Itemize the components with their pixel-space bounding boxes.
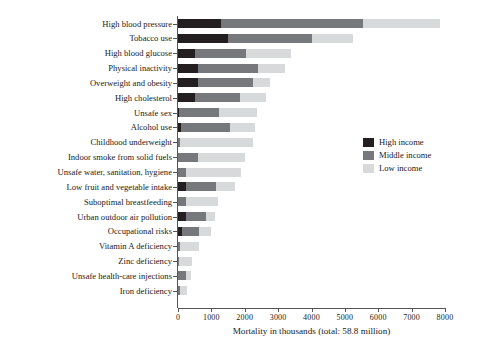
category-label-5: High cholesterol [0, 94, 177, 103]
bar-segment-low-income [186, 271, 192, 280]
bar-segment-low-income [253, 78, 270, 87]
bar-row [178, 197, 445, 206]
bar-segment-high-income [178, 19, 221, 28]
legend-item-2: Low income [363, 162, 431, 175]
x-tick-8000 [445, 308, 446, 312]
bar-segment-low-income [312, 34, 354, 43]
bar-row [178, 257, 445, 266]
x-tick-label-8000: 8000 [437, 313, 454, 322]
bar-row [178, 286, 445, 295]
category-label-15: Vitamin A deficiency [0, 242, 177, 251]
bar-segment-low-income [180, 242, 199, 251]
bar-row [178, 123, 445, 132]
x-axis-title: Mortality in thousands (total: 58.8 mill… [178, 326, 445, 336]
category-label-2: High blood glucose [0, 49, 177, 58]
bar-segment-low-income [186, 197, 218, 206]
bar-row [178, 34, 445, 43]
bar-segment-middle-income [198, 78, 253, 87]
x-tick-label-3000: 3000 [270, 313, 287, 322]
category-label-4: Overweight and obesity [0, 79, 177, 88]
bar-row [178, 271, 445, 280]
category-label-9: Indoor smoke from solid fuels [0, 153, 177, 162]
bar-segment-low-income [246, 49, 291, 58]
x-tick-label-1000: 1000 [203, 313, 220, 322]
category-label-13: Urban outdoor air pollution [0, 213, 177, 222]
category-label-17: Unsafe health-care injections [0, 272, 177, 281]
category-label-8: Childhood underweight [0, 138, 177, 147]
category-label-12: Suboptimal breastfeeding [0, 198, 177, 207]
category-label-18: Iron deficiency [0, 287, 177, 296]
bar-segment-low-income [216, 182, 234, 191]
bar-row [178, 19, 445, 28]
category-label-11: Low fruit and vegetable intake [0, 183, 177, 192]
bar-segment-low-income [180, 286, 187, 295]
bar-row [178, 227, 445, 236]
category-label-3: Physical inactivity [0, 64, 177, 73]
x-tick-6000 [378, 308, 379, 312]
bar-segment-middle-income [186, 212, 207, 221]
bar-segment-middle-income [179, 108, 219, 117]
bar-segment-middle-income [198, 64, 258, 73]
x-tick-5000 [345, 308, 346, 312]
bar-row [178, 93, 445, 102]
legend-label-1: Middle income [379, 149, 431, 162]
category-label-0: High blood pressure [0, 20, 177, 29]
bar-segment-low-income [240, 93, 267, 102]
bar-segment-middle-income [181, 123, 229, 132]
category-label-10: Unsafe water, sanitation, hygiene [0, 168, 177, 177]
bar-segment-high-income [178, 49, 195, 58]
legend-swatch-2 [363, 164, 374, 173]
legend-label-2: Low income [379, 162, 422, 175]
category-label-16: Zinc deficiency [0, 257, 177, 266]
x-tick-2000 [245, 308, 246, 312]
bar-row [178, 182, 445, 191]
category-label-7: Alcohol use [0, 123, 177, 132]
bar-segment-middle-income [195, 49, 247, 58]
bar-segment-low-income [186, 168, 241, 177]
x-tick-7000 [412, 308, 413, 312]
bar-segment-middle-income [221, 19, 363, 28]
category-label-1: Tobacco use [0, 34, 177, 43]
category-label-14: Occupational risks [0, 227, 177, 236]
legend-label-0: High income [379, 136, 424, 149]
bar-row [178, 49, 445, 58]
bar-row [178, 242, 445, 251]
bar-row [178, 212, 445, 221]
bar-segment-middle-income [178, 197, 186, 206]
bar-segment-middle-income [228, 34, 311, 43]
legend-swatch-1 [363, 151, 374, 160]
x-tick-4000 [312, 308, 313, 312]
x-tick-0 [178, 308, 179, 312]
bar-segment-high-income [178, 93, 195, 102]
bar-segment-high-income [178, 34, 228, 43]
bar-segment-middle-income [178, 153, 198, 162]
bar-row [178, 64, 445, 73]
bar-segment-low-income [199, 227, 211, 236]
x-tick-label-2000: 2000 [236, 313, 253, 322]
x-tick-label-0: 0 [176, 313, 180, 322]
bar-segment-high-income [178, 64, 198, 73]
bar-segment-high-income [178, 212, 186, 221]
bar-segment-low-income [258, 64, 285, 73]
bar-segment-low-income [230, 123, 255, 132]
bar-segment-low-income [180, 138, 253, 147]
bar-segment-middle-income [195, 93, 240, 102]
bar-segment-middle-income [178, 271, 186, 280]
chart-figure: 010002000300040005000600070008000 High b… [0, 0, 491, 358]
category-label-6: Unsafe sex [0, 109, 177, 118]
x-tick-label-4000: 4000 [303, 313, 320, 322]
bar-segment-middle-income [178, 168, 186, 177]
bar-segment-low-income [363, 19, 440, 28]
bar-segment-middle-income [186, 182, 216, 191]
bar-segment-low-income [198, 153, 245, 162]
x-tick-label-6000: 6000 [370, 313, 387, 322]
bar-segment-low-income [206, 212, 214, 221]
x-tick-label-5000: 5000 [336, 313, 353, 322]
bar-segment-low-income [219, 108, 257, 117]
legend-item-1: Middle income [363, 149, 431, 162]
bar-segment-high-income [178, 182, 186, 191]
bar-segment-low-income [179, 257, 192, 266]
bar-segment-high-income [178, 78, 198, 87]
legend-item-0: High income [363, 136, 431, 149]
x-tick-label-7000: 7000 [403, 313, 420, 322]
